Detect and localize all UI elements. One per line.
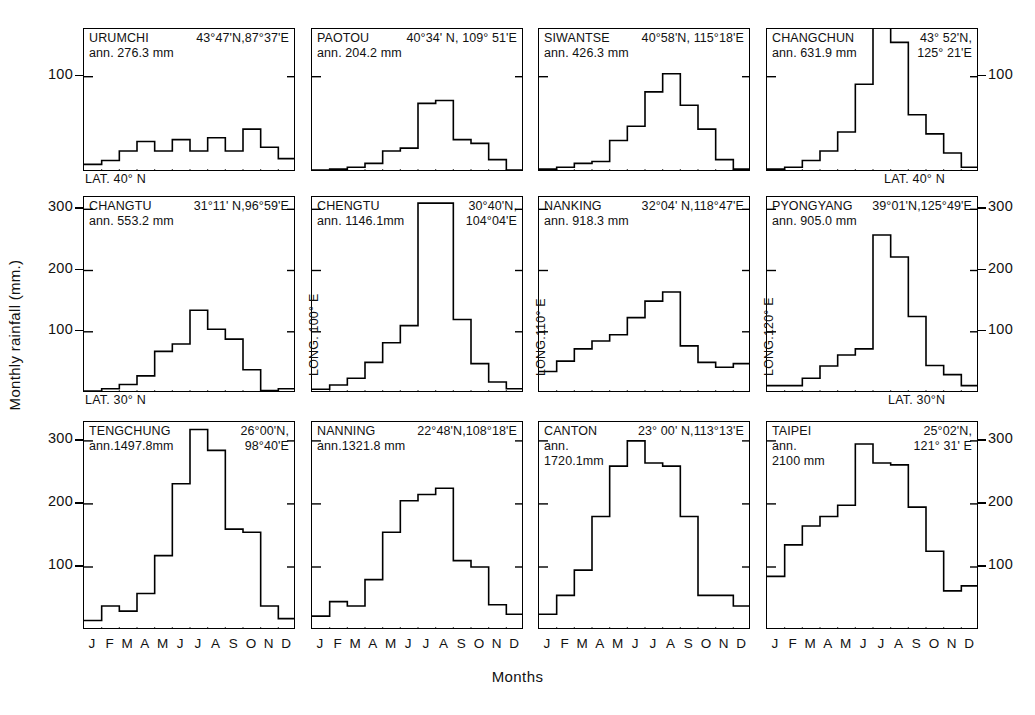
y-tick-stub xyxy=(75,207,83,209)
month-tick-label: J xyxy=(626,636,644,651)
rainfall-step-line xyxy=(539,74,750,169)
y-tick-label: 300 xyxy=(988,198,1035,214)
rainfall-step-line xyxy=(84,310,295,391)
month-tick-label: A xyxy=(435,636,453,651)
y-tick-stub xyxy=(75,330,83,332)
y-tick-stub xyxy=(978,207,986,209)
rainfall-step-line xyxy=(312,203,523,389)
rainfall-panel-nanning: NANNING22°48'N,108°18'Eann.1321.8 mm xyxy=(311,421,523,629)
month-tick-label: F xyxy=(101,636,119,651)
step-plot xyxy=(539,29,750,171)
month-tick-label: J xyxy=(399,636,417,651)
month-tick-label: M xyxy=(118,636,136,651)
rainfall-panel-nanking: NANKING32°04' N,118°47'Eann. 918.3 mm xyxy=(538,196,750,392)
rainfall-step-line xyxy=(767,29,978,169)
longitude-label: LONG.120° E xyxy=(762,297,776,376)
month-tick-label: J xyxy=(644,636,662,651)
longitude-label: LONG. 100° E xyxy=(307,294,321,376)
rainfall-step-line xyxy=(84,129,295,164)
y-tick-stub xyxy=(978,565,986,567)
step-plot xyxy=(767,422,978,629)
month-tick-label: S xyxy=(224,636,242,651)
month-tick-label: F xyxy=(556,636,574,651)
month-tick-label: D xyxy=(505,636,523,651)
month-tick-label: S xyxy=(679,636,697,651)
month-tick-label: D xyxy=(277,636,295,651)
month-tick-label: M xyxy=(801,636,819,651)
month-tick-label: O xyxy=(242,636,260,651)
rainfall-panel-canton: CANTON23° 00' N,113°13'Eann.1720.1mm xyxy=(538,421,750,629)
y-tick-label: 200 xyxy=(988,260,1035,276)
latitude-label: LAT. 30° N xyxy=(85,393,146,407)
rainfall-panel-urumchi: URUMCHI43°47'N,87°37'Eann. 276.3 mm xyxy=(83,28,295,171)
month-tick-label: J xyxy=(538,636,556,651)
rainfall-panel-changtu: CHANGTU31°11' N,96°59'Eann. 553.2 mm xyxy=(83,196,295,392)
y-tick-label: 100 xyxy=(21,66,73,82)
month-axis: JFMAMJJASOND xyxy=(766,636,978,651)
month-tick-label: F xyxy=(329,636,347,651)
y-tick-stub xyxy=(978,502,986,504)
month-tick-label: J xyxy=(417,636,435,651)
step-plot xyxy=(767,29,978,171)
rainfall-panel-paotou: PAOTOU40°34' N, 109° 51'Eann. 204.2 mm xyxy=(311,28,523,171)
rainfall-panel-chengtu: CHENGTU30°40'N,ann. 1146.1mm104°04'E xyxy=(311,196,523,392)
y-tick-label: 300 xyxy=(988,430,1035,446)
month-tick-label: M xyxy=(154,636,172,651)
step-plot xyxy=(312,197,523,392)
month-tick-label: N xyxy=(260,636,278,651)
month-tick-label: N xyxy=(488,636,506,651)
y-tick-stub xyxy=(978,330,986,332)
month-axis: JFMAMJJASOND xyxy=(311,636,523,651)
month-tick-label: F xyxy=(784,636,802,651)
month-tick-label: A xyxy=(136,636,154,651)
y-tick-label: 100 xyxy=(21,556,73,572)
step-plot xyxy=(312,29,523,171)
rainfall-panel-tengchung: TENGCHUNG26°00'N,ann.1497.8mm98°40'E xyxy=(83,421,295,629)
month-tick-label: M xyxy=(382,636,400,651)
month-tick-label: A xyxy=(819,636,837,651)
latitude-label: LAT. 40° N xyxy=(884,172,945,186)
latitude-label: LAT. 30°N xyxy=(888,393,945,407)
y-tick-stub xyxy=(978,269,986,271)
y-tick-label: 300 xyxy=(21,198,73,214)
month-tick-label: J xyxy=(189,636,207,651)
y-tick-label: 300 xyxy=(21,430,73,446)
month-tick-label: J xyxy=(83,636,101,651)
y-axis-title: Monthly rainfall (mm.) xyxy=(6,0,23,215)
y-tick-label: 100 xyxy=(988,556,1035,572)
month-tick-label: J xyxy=(311,636,329,651)
month-tick-label: A xyxy=(890,636,908,651)
y-tick-stub xyxy=(75,75,83,77)
month-tick-label: O xyxy=(925,636,943,651)
month-tick-label: M xyxy=(346,636,364,651)
y-tick-label: 200 xyxy=(988,493,1035,509)
rainfall-panel-taipei: TAIPEI25°02'N,ann.121° 31' E2100 mm xyxy=(766,421,978,629)
rainfall-step-line xyxy=(539,292,750,372)
latitude-label: LAT. 40° N xyxy=(85,172,146,186)
rainfall-figure: Monthly rainfall (mm.) Months URUMCHI43°… xyxy=(0,0,1035,715)
rainfall-panel-siwantse: SIWANTSE40°58'N, 115°18'Eann. 426.3 mm xyxy=(538,28,750,171)
step-plot xyxy=(84,422,295,629)
y-tick-stub xyxy=(75,439,83,441)
rainfall-step-line xyxy=(767,235,978,386)
step-plot xyxy=(539,422,750,629)
month-tick-label: A xyxy=(364,636,382,651)
month-tick-label: O xyxy=(470,636,488,651)
y-tick-label: 100 xyxy=(21,321,73,337)
month-axis: JFMAMJJASOND xyxy=(83,636,295,651)
y-tick-label: 200 xyxy=(21,493,73,509)
month-tick-label: A xyxy=(591,636,609,651)
month-tick-label: M xyxy=(573,636,591,651)
y-tick-label: 100 xyxy=(988,66,1035,82)
rainfall-step-line xyxy=(767,444,978,591)
y-tick-stub xyxy=(978,439,986,441)
rainfall-panel-pyongyang: PYONGYANG39°01'N,125°49'Eann. 905.0 mm xyxy=(766,196,978,392)
rainfall-panel-changchun: CHANGCHUN43° 52'N,ann. 631.9 mm125° 21'E xyxy=(766,28,978,171)
rainfall-step-line xyxy=(312,101,523,171)
step-plot xyxy=(767,197,978,392)
y-tick-stub xyxy=(75,269,83,271)
month-tick-label: J xyxy=(171,636,189,651)
month-tick-label: M xyxy=(837,636,855,651)
x-axis-title: Months xyxy=(0,668,1035,685)
step-plot xyxy=(312,422,523,629)
